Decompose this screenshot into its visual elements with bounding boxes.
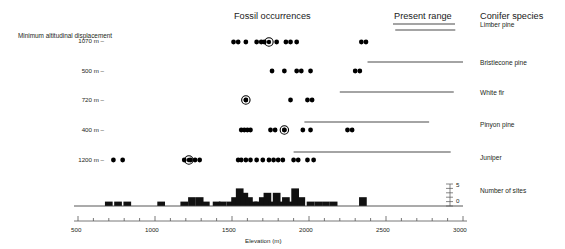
fossil-dot (353, 69, 358, 74)
fossil-dot (305, 158, 310, 163)
histogram-bar (202, 202, 210, 206)
fossil-dot (294, 40, 299, 45)
histogram-bar (322, 202, 330, 206)
fossil-dot (359, 40, 364, 45)
fossil-dot (308, 128, 313, 133)
fossil-dot (350, 128, 355, 133)
fossil-dot (284, 40, 289, 45)
histogram-bar (157, 202, 165, 206)
fossil-dot (299, 69, 304, 74)
histogram-bar (359, 197, 367, 206)
fossil-dot (248, 158, 253, 163)
fossil-dot (280, 158, 285, 163)
histogram-bar (307, 202, 315, 206)
fossil-dot (288, 98, 293, 103)
fossil-dot (276, 158, 281, 163)
histogram-bar (123, 202, 131, 206)
histogram-bar (219, 202, 227, 206)
fossil-dot (310, 98, 315, 103)
histogram-bar (330, 202, 338, 206)
figure-root: Fossil occurrences Present range Conifer… (0, 0, 565, 249)
fossil-dot (239, 158, 244, 163)
fossil-dot (197, 158, 202, 163)
histogram-bar (105, 202, 113, 206)
fossil-dot (248, 128, 253, 133)
histogram-bar (114, 202, 122, 206)
fossil-dot (273, 128, 278, 133)
fossil-dot (120, 158, 125, 163)
fossil-dot (274, 40, 279, 45)
fossil-dot (364, 40, 369, 45)
fossil-dot (294, 69, 299, 74)
fossil-dot (305, 98, 310, 103)
fossil-dot (300, 128, 305, 133)
histogram-bar (180, 202, 188, 206)
fossil-dot (282, 69, 287, 74)
fossil-dot (260, 158, 265, 163)
fossil-dot (254, 40, 259, 45)
histogram-bar (297, 197, 305, 206)
fossil-dot (291, 158, 296, 163)
fossil-dot (308, 69, 313, 74)
fossil-dot (243, 40, 248, 45)
fossil-dot (243, 158, 248, 163)
fossil-dot (271, 158, 276, 163)
fossil-dot (288, 40, 293, 45)
fossil-dot (231, 40, 236, 45)
modern-site-dot (187, 158, 191, 162)
fossil-dot (270, 69, 275, 74)
fossil-dot (357, 69, 362, 74)
fossil-dot (254, 158, 259, 163)
modern-site-dot (267, 40, 271, 44)
fossil-dot (345, 128, 350, 133)
fossil-dot (296, 158, 301, 163)
fossil-dot (111, 158, 116, 163)
modern-site-dot (244, 98, 248, 102)
fossil-dot (311, 158, 316, 163)
fossil-dot (236, 40, 241, 45)
histogram-bar (188, 197, 196, 206)
modern-site-dot (282, 128, 286, 132)
plot-canvas (0, 0, 565, 249)
fossil-dot (267, 158, 272, 163)
fossil-dot (268, 128, 273, 133)
histogram-bar (314, 202, 322, 206)
